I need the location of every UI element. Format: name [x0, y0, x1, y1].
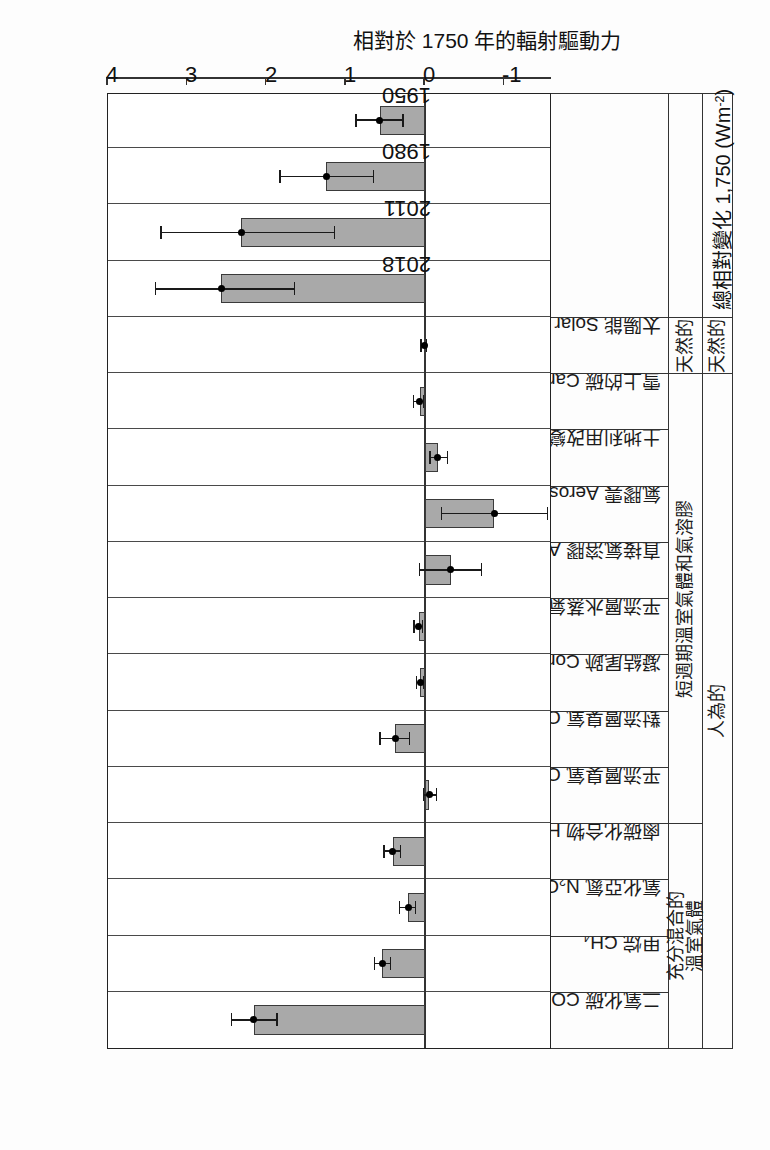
radiative-forcing-figure: 排放的化合物 2018201119801950 -101234 相對於 1750… [35, 45, 735, 1105]
axis-tick-label: 4 [106, 62, 146, 88]
category-label-text: 對流層臭氧 Ozone（Tropospheric） [551, 711, 661, 728]
category-label-cell: 凝結尾跡 Contrails [551, 654, 668, 710]
category-label-cell: 平流層臭氧 Ozone（Stratospheric） [551, 767, 668, 823]
axis-tick-label: 1 [344, 62, 384, 88]
category-label-text: 平流層臭氧 Ozone（Stratospheric） [551, 767, 661, 784]
group-label-cell: 充分混合的 溫室氣體 [669, 823, 702, 1048]
top-group-cell: 天然的 [703, 317, 732, 373]
category-label-text: 直接氣溶膠 Aerosols - direct [551, 542, 661, 559]
category-label-row: 二氧化碳 CO2甲烷 CH4氧化亞氮 N2O鹵碳化合物 Halocarbons平… [551, 93, 669, 1049]
category-label-cell: 對流層臭氧 Ozone（Tropospheric） [551, 711, 668, 767]
category-label-cell: 鹵碳化合物 Halocarbons [551, 823, 668, 879]
axis-tick-label: -1 [502, 62, 542, 88]
category-label-text: 太陽能 Solar [554, 317, 661, 334]
category-label-text: 氧化亞氮 N2O [551, 879, 661, 896]
figure-stage: 排放的化合物 2018201119801950 -101234 相對於 1750… [0, 0, 770, 1150]
category-label-text: 凝結尾跡 Contrails [551, 654, 661, 671]
group-label-cell: 短週期溫室氣體和氣溶膠 [669, 373, 702, 823]
group-label-text: 天然的 [676, 319, 695, 373]
axis-tick-label: 0 [423, 62, 463, 88]
category-label-text: 氣膠雲 Aerosols - clouds [551, 486, 661, 503]
group-label-text: 充分混合的 溫室氣體 [667, 891, 705, 981]
category-label-text: 鹵碳化合物 Halocarbons [551, 823, 661, 840]
top-group-label-text: 人為的 [708, 684, 727, 738]
category-label-text: 土地利用改變 landuse change [551, 429, 661, 446]
total-change-caption: 總相對變化 1,750 (Wm-2) [707, 89, 736, 310]
category-label-cell: 氧化亞氮 N2O [551, 879, 668, 935]
total-column-cell [551, 261, 668, 317]
group-label-cell: 天然的 [669, 317, 702, 373]
top-group-cell: 人為的 [703, 373, 732, 1048]
category-label-cell: 二氧化碳 CO2 [551, 992, 668, 1048]
group-label-text: 短週期溫室氣體和氣溶膠 [676, 500, 695, 698]
axis-tick-label: 2 [265, 62, 305, 88]
category-label-text: 甲烷 CH4 [583, 936, 661, 953]
category-label-cell: 土地利用改變 landuse change [551, 429, 668, 485]
axis-spine [107, 77, 551, 79]
axis-tick-label: 3 [185, 62, 225, 88]
total-column-cell [551, 204, 668, 260]
group-label-row: 充分混合的 溫室氣體短週期溫室氣體和氣溶膠天然的 [669, 93, 703, 1049]
axis-title: 相對於 1750 年的輻射驅動力 [353, 24, 621, 54]
category-label-cell: 雪上的碳 Carbon on snow [551, 373, 668, 429]
category-label-text: 二氧化碳 CO2 [551, 992, 661, 1009]
category-label-cell: 直接氣溶膠 Aerosols - direct [551, 542, 668, 598]
category-label-cell: 平流層水蒸氣 Stratospheric H2O [551, 598, 668, 654]
top-group-label-text: 天然的 [708, 319, 727, 373]
total-column-cell [551, 148, 668, 204]
rotated-figure-wrapper: 排放的化合物 2018201119801950 -101234 相對於 1750… [35, 45, 735, 1105]
category-label-text: 平流層水蒸氣 Stratospheric H2O [551, 598, 661, 615]
total-column-cell [551, 92, 668, 148]
group-row-total-region [669, 92, 702, 317]
category-label-cell: 氣膠雲 Aerosols - clouds [551, 486, 668, 542]
category-label-cell: 甲烷 CH4 [551, 936, 668, 992]
category-label-cell: 太陽能 Solar [551, 317, 668, 373]
category-label-text: 雪上的碳 Carbon on snow [551, 373, 661, 390]
